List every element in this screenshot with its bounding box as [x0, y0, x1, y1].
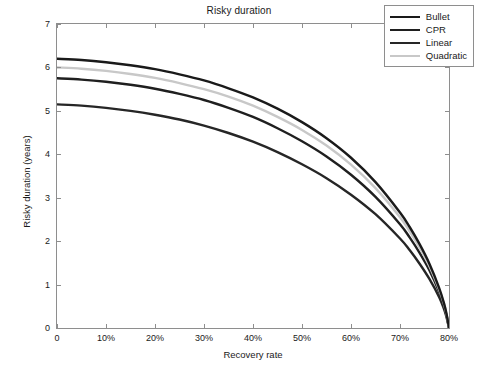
x-tick-mark — [449, 324, 450, 328]
series-line-bullet — [57, 59, 449, 328]
x-tick-label: 0 — [54, 333, 59, 343]
y-tick-label: 3 — [32, 193, 50, 203]
y-tick-mark — [57, 111, 61, 112]
legend-label: Linear — [426, 36, 452, 49]
y-tick-mark — [445, 154, 449, 155]
y-tick-mark — [57, 241, 61, 242]
legend-item: Linear — [390, 36, 467, 49]
x-tick-mark — [351, 24, 352, 28]
x-tick-mark — [302, 324, 303, 328]
x-tick-mark — [351, 324, 352, 328]
x-tick-mark — [106, 24, 107, 28]
y-tick-mark — [445, 328, 449, 329]
chart-legend[interactable]: Bullet CPR Linear Quadratic — [384, 5, 474, 67]
legend-line-swatch-bullet — [390, 16, 420, 18]
x-tick-label: 10% — [97, 333, 115, 343]
y-tick-mark — [57, 24, 61, 25]
figure-container: Risky duration 010%20%30%40%50%60%70%80%… — [0, 0, 478, 377]
legend-item: Bullet — [390, 10, 467, 23]
y-tick-mark — [445, 285, 449, 286]
series-line-quadratic — [57, 67, 449, 328]
y-tick-mark — [445, 198, 449, 199]
y-tick-mark — [57, 285, 61, 286]
legend-item: Quadratic — [390, 49, 467, 62]
legend-item: CPR — [390, 23, 467, 36]
x-tick-mark — [204, 324, 205, 328]
x-tick-label: 40% — [244, 333, 262, 343]
x-tick-mark — [400, 324, 401, 328]
y-tick-label: 0 — [32, 323, 50, 333]
y-tick-label: 5 — [32, 106, 50, 116]
y-tick-label: 6 — [32, 62, 50, 72]
legend-label: CPR — [426, 23, 446, 36]
x-tick-label: 80% — [440, 333, 458, 343]
legend-line-swatch-linear — [390, 42, 420, 44]
x-tick-label: 50% — [293, 333, 311, 343]
x-tick-mark — [155, 324, 156, 328]
legend-line-swatch-quadratic — [390, 55, 420, 57]
y-tick-label: 1 — [32, 280, 50, 290]
y-tick-label: 2 — [32, 236, 50, 246]
x-tick-mark — [253, 24, 254, 28]
x-tick-mark — [253, 324, 254, 328]
y-tick-mark — [57, 154, 61, 155]
x-tick-label: 20% — [146, 333, 164, 343]
legend-label: Bullet — [426, 10, 450, 23]
series-line-linear — [57, 104, 449, 328]
series-line-cpr — [57, 78, 449, 328]
plot-area — [56, 23, 450, 329]
legend-line-swatch-cpr — [390, 29, 420, 31]
y-tick-mark — [445, 111, 449, 112]
x-tick-label: 70% — [391, 333, 409, 343]
x-tick-label: 60% — [342, 333, 360, 343]
legend-label: Quadratic — [426, 49, 467, 62]
x-axis-label: Recovery rate — [56, 349, 450, 360]
y-tick-mark — [445, 241, 449, 242]
y-tick-mark — [57, 67, 61, 68]
y-tick-mark — [445, 67, 449, 68]
x-tick-label: 30% — [195, 333, 213, 343]
series-lines — [57, 24, 449, 328]
plot-inner — [57, 24, 449, 328]
x-tick-mark — [155, 24, 156, 28]
y-tick-label: 4 — [32, 149, 50, 159]
y-tick-mark — [57, 328, 61, 329]
y-tick-label: 7 — [32, 19, 50, 29]
x-tick-mark — [106, 324, 107, 328]
y-tick-mark — [57, 198, 61, 199]
x-tick-mark — [302, 24, 303, 28]
y-axis-label: Risky duration (years) — [21, 102, 32, 262]
x-tick-mark — [204, 24, 205, 28]
